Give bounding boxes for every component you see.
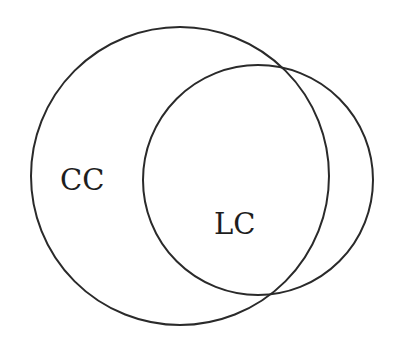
cc-label: CC — [60, 163, 104, 197]
lc-circle — [143, 65, 373, 295]
venn-diagram: CC LC — [0, 0, 396, 353]
venn-svg: CC LC — [0, 0, 396, 353]
lc-label: LC — [214, 207, 255, 241]
